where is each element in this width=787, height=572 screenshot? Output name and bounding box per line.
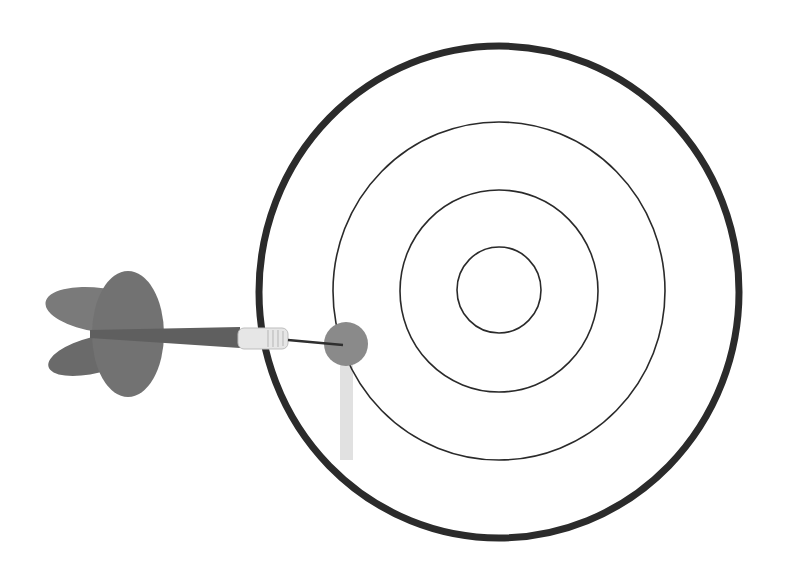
target-ring-2: [333, 122, 665, 460]
dart-icon: [42, 271, 343, 397]
target-ring-outer: [259, 46, 739, 538]
target-ring-bullseye: [457, 247, 541, 333]
dart-barrel: [238, 328, 288, 349]
target-icon: [259, 46, 739, 538]
target-ring-3: [400, 190, 598, 392]
dart-target-illustration: [0, 0, 787, 572]
target-svg: [0, 0, 787, 572]
